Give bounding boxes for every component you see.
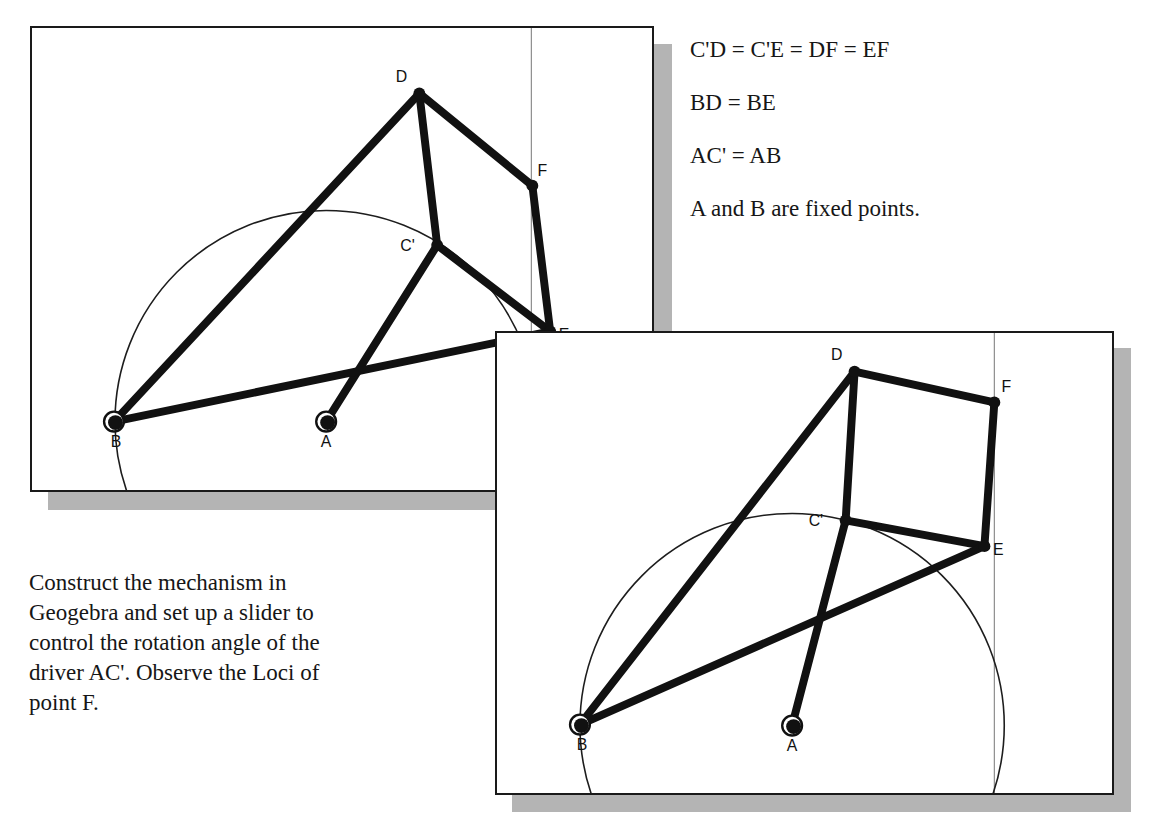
link-B-D — [580, 372, 855, 725]
link-Cprime-E — [846, 520, 985, 546]
link-D-F — [419, 93, 532, 185]
pivot-A — [320, 415, 335, 430]
point-label-B: B — [111, 433, 122, 450]
point-label-B: B — [577, 736, 588, 753]
instruction-paragraph: Construct the mechanism in Geogebra and … — [29, 568, 349, 717]
figure-2-drawing: DFC'EBA — [497, 333, 1112, 793]
point-label-D: D — [396, 68, 407, 85]
equation-line-4: A and B are fixed points. — [690, 197, 920, 220]
joint-F — [526, 180, 538, 192]
equation-line-1: C'D = C'E = DF = EF — [690, 38, 920, 61]
instruction-line-4: driver AC'. Observe the Loci of — [29, 658, 349, 688]
pivot-B — [108, 415, 123, 430]
constraint-equations: C'D = C'E = DF = EF BD = BE AC' = AB A a… — [690, 38, 920, 220]
point-label-E: E — [993, 541, 1004, 558]
link-B-D — [114, 93, 419, 421]
point-label-F: F — [537, 162, 547, 179]
point-label-Cprime: C' — [400, 237, 414, 254]
joint-E — [978, 540, 990, 552]
joint-D — [849, 366, 861, 378]
instruction-line-1: Construct the mechanism in — [29, 568, 349, 598]
joint-D — [413, 87, 425, 99]
link-D-F — [855, 372, 995, 403]
link-A-Cprime — [326, 245, 437, 421]
point-label-A: A — [787, 737, 798, 754]
pivot-A — [786, 719, 801, 734]
link-D-Cprime — [846, 372, 855, 521]
page-canvas: DFC'EBA DFC'EBA C'D = C'E = DF = EF BD =… — [0, 0, 1151, 821]
point-label-F: F — [1001, 378, 1011, 395]
point-label-D: D — [831, 346, 842, 363]
equation-line-2: BD = BE — [690, 91, 920, 114]
joint-Cprime — [840, 514, 852, 526]
joint-Cprime — [431, 239, 443, 251]
joint-F — [988, 396, 1000, 408]
instruction-line-2: Geogebra and set up a slider to — [29, 598, 349, 628]
figure-2-frame: DFC'EBA — [495, 331, 1114, 795]
link-B-E — [580, 546, 984, 724]
point-label-A: A — [321, 433, 332, 450]
link-F-E — [984, 402, 994, 546]
equation-line-3: AC' = AB — [690, 144, 920, 167]
point-label-Cprime: C' — [809, 512, 823, 529]
link-Cprime-E — [437, 245, 550, 331]
instruction-line-3: control the rotation angle of the — [29, 628, 349, 658]
instruction-line-5: point F. — [29, 688, 349, 718]
pivot-B — [574, 718, 589, 733]
link-F-E — [532, 186, 550, 332]
link-D-Cprime — [419, 93, 437, 245]
